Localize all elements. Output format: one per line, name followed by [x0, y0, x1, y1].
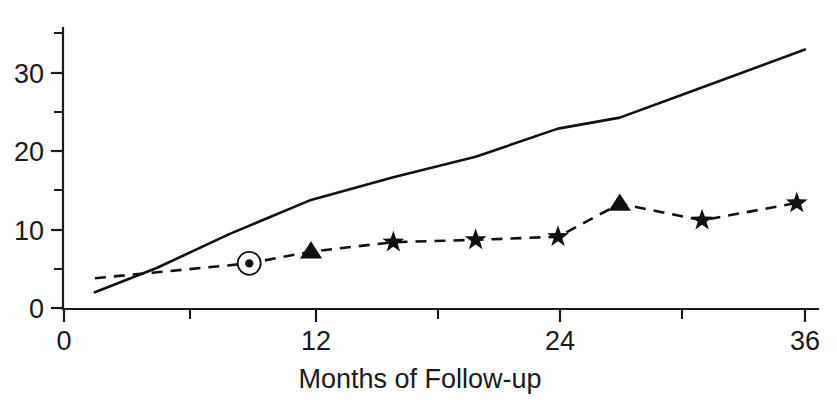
- x-tick-label-0: 0: [56, 326, 71, 356]
- chart-background: [0, 0, 837, 402]
- x-tick-label-24: 24: [545, 326, 575, 356]
- y-tick-label-0: 0: [29, 294, 44, 324]
- y-tick-label-30: 30: [14, 59, 44, 89]
- y-tick-label-10: 10: [14, 216, 44, 246]
- chart-svg: 0 10 20 30 0 12 24 36 Months of Follow-u…: [0, 0, 837, 402]
- x-axis-title: Months of Follow-up: [298, 364, 541, 394]
- marker-circle-dot: [245, 259, 253, 267]
- x-tick-label-12: 12: [301, 326, 331, 356]
- y-tick-label-20: 20: [14, 137, 44, 167]
- x-tick-label-36: 36: [790, 326, 820, 356]
- chart-container: 0 10 20 30 0 12 24 36 Months of Follow-u…: [0, 0, 837, 402]
